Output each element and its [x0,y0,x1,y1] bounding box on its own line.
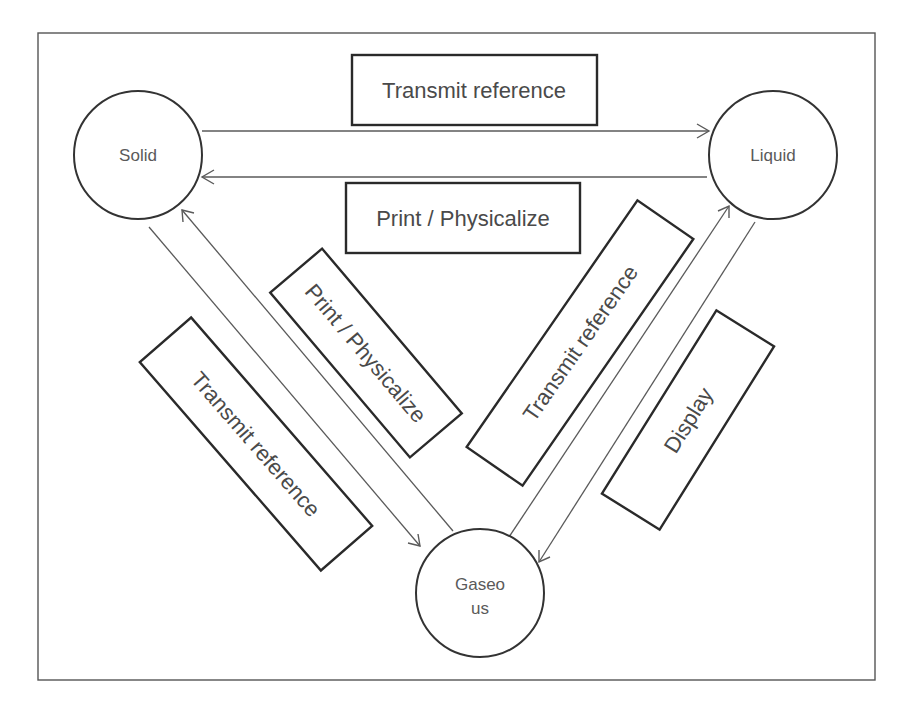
label-solid-to-liquid: Transmit reference [382,78,566,103]
state-gaseous: Gaseo us [416,529,544,657]
state-gaseous-label-line2: us [471,599,489,618]
label-box-gaseous-to-solid: Print / Physicalize [270,249,462,458]
label-box-liquid-to-solid: Print / Physicalize [346,183,580,253]
label-liquid-to-solid: Print / Physicalize [376,206,550,231]
label-box-solid-to-liquid: Transmit reference [352,55,597,125]
state-liquid: Liquid [709,91,837,219]
state-solid: Solid [74,91,202,219]
state-solid-label: Solid [119,146,157,165]
label-box-liquid-to-gaseous: Display [602,310,774,529]
state-transition-diagram: Solid Liquid Gaseo us Transmit reference… [0,0,913,713]
state-liquid-label: Liquid [750,146,795,165]
state-gaseous-label-line1: Gaseo [455,575,505,594]
